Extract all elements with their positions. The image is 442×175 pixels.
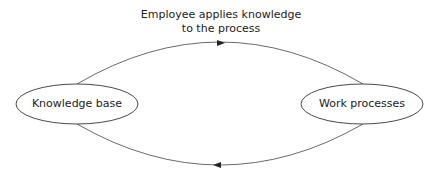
arrow-left-icon [213,162,221,168]
knowledge-base-label: Knowledge base [17,97,137,110]
top-label-line2: to the process [121,22,321,36]
work-processes-label: Work processes [302,97,422,110]
top-edge-label: Employee applies knowledge to the proces… [121,8,321,36]
edge-bottom-arc [77,124,363,165]
edge-top-arc [77,42,363,84]
arrow-right-icon [217,40,225,46]
top-label-line1: Employee applies knowledge [121,8,321,22]
